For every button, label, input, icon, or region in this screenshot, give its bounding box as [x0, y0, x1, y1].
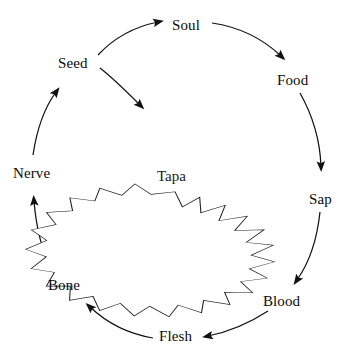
node-label-soul: Soul — [172, 18, 200, 33]
edge-seed-to-tapa — [100, 68, 140, 105]
node-label-bone: Bone — [48, 278, 80, 293]
edge-soul-to-food — [212, 23, 281, 56]
node-label-food: Food — [277, 73, 308, 88]
edge-seed-to-soul — [98, 22, 158, 55]
cycle-diagram: Seed Soul Food Sap Blood Flesh Bone Nerv… — [0, 0, 354, 363]
node-label-blood: Blood — [263, 294, 300, 309]
edge-sap-to-blood — [297, 212, 320, 280]
tapa-star-burst — [26, 184, 275, 317]
node-label-seed: Seed — [58, 56, 88, 71]
edge-flesh-to-bone — [90, 307, 153, 338]
node-label-nerve: Nerve — [13, 166, 50, 181]
edge-blood-to-flesh — [208, 311, 268, 336]
edge-nerve-to-seed — [33, 92, 56, 155]
center-label-tapa: Tapa — [157, 169, 186, 184]
edge-food-to-sap — [300, 93, 321, 166]
node-label-sap: Sap — [309, 192, 332, 207]
node-label-flesh: Flesh — [159, 329, 192, 344]
